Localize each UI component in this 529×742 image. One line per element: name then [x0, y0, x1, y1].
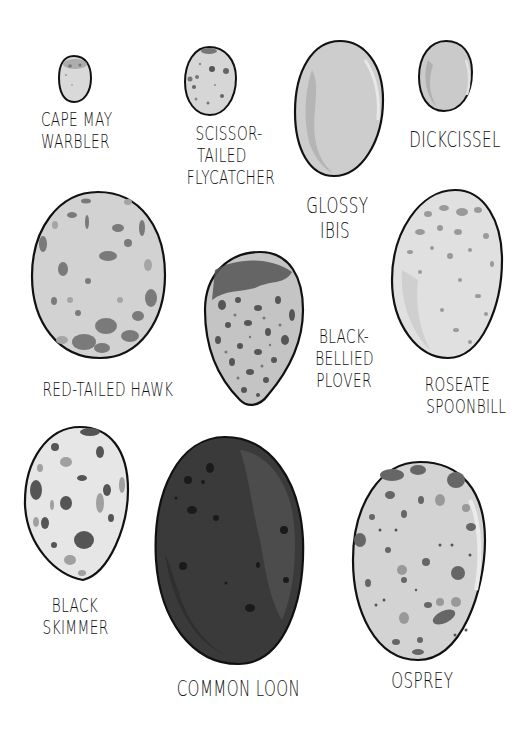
- label-line: SKIMMER: [43, 616, 108, 638]
- label-black-skimmer: BLACK SKIMMER: [43, 594, 108, 638]
- label-line: WARBLER: [41, 130, 107, 152]
- label-black-bellied-plover: BLACK- BELLIED PLOVER: [315, 325, 373, 391]
- label-dickcissel: DICKCISSEL: [408, 129, 502, 151]
- egg-black-bellied-plover: [205, 252, 303, 405]
- label-red-tailed-hawk: RED-TAILED HAWK: [42, 378, 157, 400]
- label-scissor-tailed-flycatcher: SCISSOR- TAILED FLYCATCHER: [187, 122, 273, 188]
- egg-red-tailed-hawk: [32, 192, 165, 358]
- label-line: RED-TAILED HAWK: [42, 378, 157, 400]
- label-common-loon: COMMON LOON: [177, 678, 289, 700]
- egg-osprey: [353, 462, 485, 660]
- label-line: ROSEATE: [420, 373, 499, 395]
- label-line: BLACK: [43, 594, 108, 616]
- egg-cape-may-warbler: [59, 56, 91, 102]
- label-line: PLOVER: [315, 369, 373, 391]
- egg-scissor-tailed-flycatcher: [185, 47, 236, 115]
- label-line: IBIS: [306, 219, 364, 244]
- label-line: TAILED: [187, 144, 273, 166]
- label-line: BELLIED: [315, 347, 373, 369]
- egg-dickcissel: [419, 41, 472, 111]
- egg-chart: CAPE MAY WARBLER SCISSOR- TAILED FLYCATC…: [0, 0, 529, 742]
- egg-glossy-ibis: [295, 41, 383, 176]
- label-glossy-ibis: GLOSSY IBIS: [306, 194, 364, 244]
- egg-black-skimmer: [25, 427, 128, 580]
- label-line: SPOONBILL: [420, 395, 499, 417]
- label-line: DICKCISSEL: [408, 129, 502, 151]
- label-osprey: OSPREY: [391, 670, 449, 692]
- label-line: GLOSSY: [306, 194, 364, 219]
- label-line: FLYCATCHER: [187, 166, 273, 188]
- egg-roseate-spoonbill: [392, 190, 502, 358]
- egg-common-loon: [156, 437, 304, 664]
- label-line: CAPE MAY: [41, 108, 107, 130]
- label-line: COMMON LOON: [177, 678, 289, 700]
- label-cape-may-warbler: CAPE MAY WARBLER: [41, 108, 107, 152]
- label-line: BLACK-: [315, 325, 373, 347]
- label-line: SCISSOR-: [187, 122, 273, 144]
- label-roseate-spoonbill: ROSEATE SPOONBILL: [420, 373, 499, 417]
- label-line: OSPREY: [391, 670, 449, 692]
